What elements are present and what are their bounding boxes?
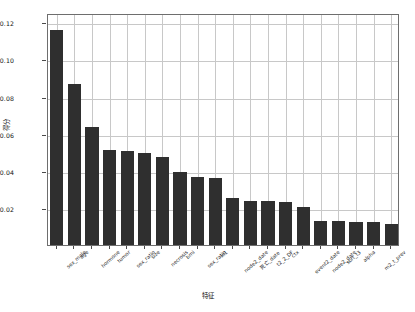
x-axis-tick-mark bbox=[144, 246, 145, 249]
bar bbox=[332, 221, 345, 245]
y-axis-tick-label: 0.02 bbox=[0, 205, 14, 212]
x-axis-tick-mark bbox=[355, 246, 356, 249]
x-axis-tick-mark bbox=[337, 246, 338, 249]
y-axis-tick-mark bbox=[42, 60, 46, 61]
x-axis-tick-mark bbox=[126, 246, 127, 249]
bar bbox=[297, 207, 310, 245]
x-axis-tick-mark bbox=[179, 246, 180, 249]
y-axis-tick-mark bbox=[42, 209, 46, 210]
x-axis-tick-mark bbox=[320, 246, 321, 249]
y-axis-tick-mark bbox=[42, 98, 46, 99]
x-axis-tick-label: m2_t_prev bbox=[382, 249, 406, 271]
bar bbox=[85, 127, 98, 245]
x-axis-tick-mark bbox=[373, 246, 374, 249]
y-axis-tick-label: 0.08 bbox=[0, 94, 14, 101]
feature-importance-chart: 得分 特征 0.020.040.060.080.100.12sex_maleag… bbox=[0, 0, 415, 312]
bar bbox=[156, 157, 169, 245]
y-axis-tick-mark bbox=[42, 135, 46, 136]
bar bbox=[68, 84, 81, 245]
x-axis-tick-mark bbox=[91, 246, 92, 249]
x-axis-tick-mark bbox=[267, 246, 268, 249]
bar bbox=[121, 151, 134, 245]
bar bbox=[385, 224, 398, 245]
bar-series bbox=[48, 15, 398, 245]
y-axis-tick-mark bbox=[42, 23, 46, 24]
x-axis-tick-mark bbox=[197, 246, 198, 249]
bar bbox=[244, 201, 257, 245]
bar bbox=[173, 172, 186, 245]
x-axis-tick-mark bbox=[56, 246, 57, 249]
y-axis-tick-label: 0.06 bbox=[0, 131, 14, 138]
x-axis-title: 特征 bbox=[0, 291, 415, 300]
x-axis-tick-mark bbox=[214, 246, 215, 249]
bar bbox=[138, 153, 151, 245]
x-axis-tick-label: alpha bbox=[362, 249, 377, 263]
bar bbox=[209, 178, 222, 245]
bar bbox=[226, 198, 239, 245]
y-axis-tick-label: 0.12 bbox=[0, 20, 14, 27]
bar bbox=[103, 150, 116, 245]
bar bbox=[191, 177, 204, 245]
x-axis-tick-label: sbrt_t3 bbox=[345, 249, 362, 265]
bar bbox=[50, 30, 63, 245]
x-axis-tick-mark bbox=[249, 246, 250, 249]
bar bbox=[349, 222, 362, 245]
bar bbox=[261, 201, 274, 245]
x-axis-tick-mark bbox=[109, 246, 110, 249]
bar bbox=[279, 202, 292, 245]
bar bbox=[367, 222, 380, 245]
y-axis-title: 得分 bbox=[2, 119, 11, 131]
x-axis-tick-mark bbox=[302, 246, 303, 249]
x-axis-tick-mark bbox=[73, 246, 74, 249]
y-axis-tick-label: 0.10 bbox=[0, 57, 14, 64]
x-axis-tick-mark bbox=[232, 246, 233, 249]
x-axis-tick-mark bbox=[285, 246, 286, 249]
y-axis-tick-label: 0.04 bbox=[0, 168, 14, 175]
plot-area bbox=[47, 14, 399, 246]
y-axis-tick-mark bbox=[42, 172, 46, 173]
x-axis-tick-mark bbox=[390, 246, 391, 249]
bar bbox=[314, 221, 327, 245]
x-axis-tick-mark bbox=[161, 246, 162, 249]
